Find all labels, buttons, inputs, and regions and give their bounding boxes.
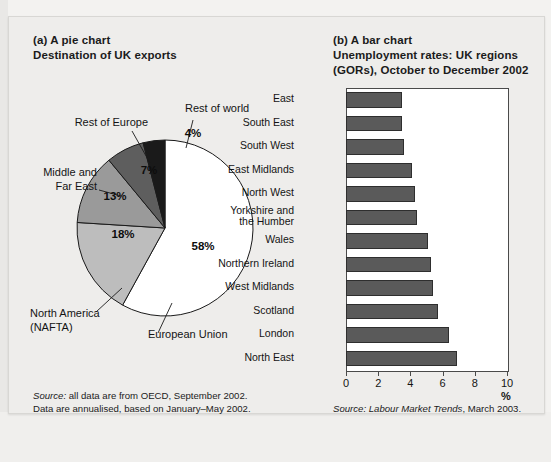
x-axis-tick-label: 10 [501, 377, 513, 389]
x-axis-tick-label: 6 [440, 377, 446, 389]
x-axis-tick [507, 371, 508, 376]
bar [346, 139, 404, 155]
source-a-prefix: Source: [33, 390, 66, 401]
bar-category-label: East Midlands [144, 164, 294, 176]
bar [346, 116, 402, 132]
source-b-title: Labour Market Trends [369, 403, 463, 414]
source-b-rest: , March 2003. [462, 403, 521, 414]
x-axis-tick [346, 371, 347, 376]
pie-chart: 58%18%13%7%Rest of world4%Rest of Europe… [0, 0, 300, 400]
bar-category-label: North West [144, 187, 294, 199]
panel-b-title: Unemployment rates: UK regions (GORs), O… [333, 48, 529, 77]
bar-category-label: West Midlands [144, 281, 294, 293]
bar-category-label: London [144, 328, 294, 340]
pie-slice-value: 4% [185, 127, 202, 139]
bar [346, 280, 433, 296]
source-note-a: Source: all data are from OECD, Septembe… [33, 390, 251, 415]
source-note-b: Source: Labour Market Trends, March 2003… [333, 403, 521, 416]
pie-chart-svg: 58%18%13%7%Rest of world4%Rest of Europe… [0, 0, 300, 400]
x-axis-tick-label: 2 [375, 377, 381, 389]
x-axis-tick-label: 0 [343, 377, 349, 389]
bar-category-label: North East [144, 352, 294, 364]
bar [346, 257, 431, 273]
bar [346, 304, 438, 320]
pie-slice-label: (NAFTA) [30, 321, 73, 333]
bar-category-label: South West [144, 140, 294, 152]
pie-slice-label: Rest of Europe [75, 116, 148, 128]
figure-container: (a) A pie chart Destination of UK export… [0, 0, 551, 462]
pie-slice-label: Far East [55, 180, 97, 192]
bar [346, 233, 428, 249]
bar-category-label: Scotland [144, 305, 294, 317]
bar [346, 327, 449, 343]
source-a-text: all data are from OECD, September 2002. … [33, 390, 251, 414]
x-axis-tick [475, 371, 476, 376]
bar [346, 351, 457, 367]
x-axis-tick-label: 8 [472, 377, 478, 389]
bar [346, 210, 417, 226]
x-axis-tick [378, 371, 379, 376]
bar-category-label: Yorkshire and the Humber [144, 205, 294, 228]
bar-category-label: Northern Ireland [144, 258, 294, 270]
page-bottom-edge [0, 412, 551, 462]
bar [346, 186, 415, 202]
x-axis-tick-label: 4 [407, 377, 413, 389]
x-axis-unit-label: % [501, 390, 511, 402]
x-axis-tick [443, 371, 444, 376]
pie-slice-label: Middle and [43, 166, 97, 178]
bar [346, 163, 412, 179]
bar-category-label: East [144, 93, 294, 105]
source-b-prefix: Source: [333, 403, 366, 414]
x-axis-tick [410, 371, 411, 376]
panel-b-label: (b) A bar chart [333, 33, 412, 48]
bar-chart: EastSouth EastSouth WestEast MidlandsNor… [262, 80, 542, 400]
bar-category-label: Wales [144, 234, 294, 246]
bar [346, 92, 402, 108]
bar-category-label: South East [144, 117, 294, 129]
pie-slice-value: 18% [111, 228, 134, 240]
pie-slice-label: North America [30, 307, 101, 319]
